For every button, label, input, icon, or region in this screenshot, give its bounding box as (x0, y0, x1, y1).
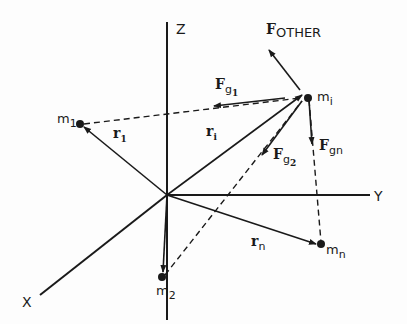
mass-mi-dot (304, 94, 312, 102)
f-g1-label: Fg1 (215, 77, 238, 91)
ri-vector (167, 95, 302, 195)
f-g2-label: Fg2 (273, 147, 296, 161)
mass-m1-label: m1 (57, 112, 77, 125)
mass-mn-dot (317, 240, 325, 248)
x-axis (40, 195, 167, 295)
mass-m1-dot (76, 120, 84, 128)
f-g1-arrow (214, 98, 285, 106)
f-gn-label: Fgn (319, 138, 343, 152)
r1-label: r1 (113, 126, 127, 140)
gravity-diagram: Z Y X m1 m2 mi mn r1 ri rn FOTHER Fg1 Fg… (0, 0, 407, 324)
f-other-arrow (269, 50, 300, 90)
ri-label: ri (206, 124, 217, 138)
z-axis-label: Z (176, 22, 186, 36)
rn-label: rn (251, 234, 265, 248)
f-other-label: FOTHER (266, 22, 321, 36)
diagram-lines (0, 0, 407, 324)
mi-m2-dashed (165, 101, 302, 275)
mass-mn-label: mn (326, 243, 346, 256)
mass-mi-label: mi (317, 90, 333, 103)
mass-m2-dot (158, 273, 166, 281)
rn-vector (167, 195, 316, 244)
y-axis-label: Y (374, 189, 383, 203)
x-axis-label: X (22, 295, 32, 309)
mass-m2-label: m2 (156, 284, 176, 297)
